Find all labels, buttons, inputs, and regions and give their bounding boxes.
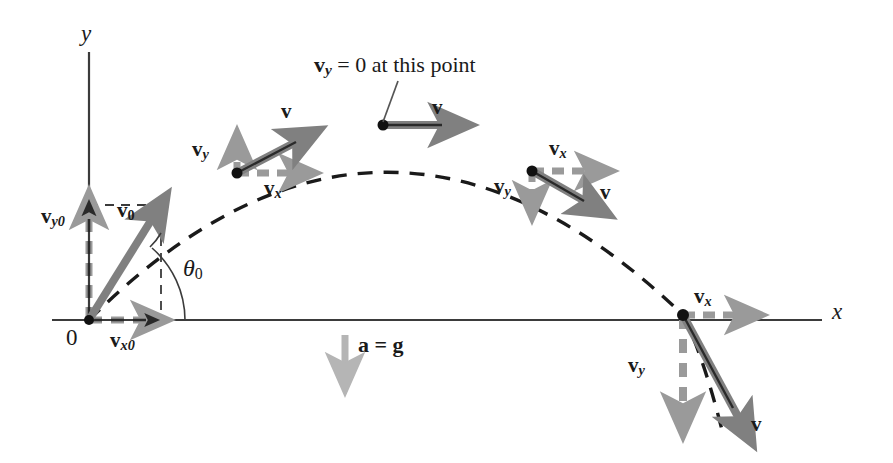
apex-v-label: v <box>432 97 443 118</box>
descending-vx-subscript: x <box>560 145 567 161</box>
ascending-vy-symbol: v <box>192 137 203 161</box>
v0-label: v0 <box>117 200 135 222</box>
ascending-vx-symbol: v <box>264 176 275 200</box>
theta0-inner-arc <box>150 233 161 247</box>
landing-vy-label: vy <box>628 355 645 377</box>
x-axis-label: x <box>832 300 842 323</box>
vy0-label: vy0 <box>41 206 65 228</box>
ascending-vy-label: vy <box>192 139 209 161</box>
projectile-motion-figure: y x 0 vy0 v0 vx0 θ0 vy vx v v vy = 0 at … <box>0 0 893 463</box>
vx0-subscript: x0 <box>121 337 135 353</box>
descending-vx-label: vx <box>549 138 567 160</box>
landing-point-group <box>677 309 742 424</box>
apex-annotation-text: = 0 at this point <box>337 52 475 77</box>
axes-group <box>52 52 822 320</box>
vx0-label: vx0 <box>110 330 135 352</box>
landing-vx-label: vx <box>694 286 712 308</box>
vx0-symbol: v <box>110 328 121 352</box>
descending-v-label: v <box>600 182 611 203</box>
descending-vx-symbol: v <box>549 136 560 160</box>
y-axis-label: y <box>81 22 91 45</box>
theta0-label: θ0 <box>183 256 203 282</box>
ascending-v-vector-core <box>237 142 296 173</box>
landing-point-dot <box>677 309 689 321</box>
apex-note-leader-line <box>383 81 398 122</box>
landing-vy-symbol: v <box>628 353 639 377</box>
launch-point-dot <box>84 315 94 325</box>
landing-v-vector-core <box>683 315 733 408</box>
landing-vy-subscript: y <box>639 362 645 378</box>
trajectory-path <box>89 172 683 320</box>
apex-annotation-vector: v <box>314 52 325 77</box>
ascending-vy-subscript: y <box>203 146 209 162</box>
descending-point-dot <box>527 166 538 177</box>
descending-point-group <box>527 166 593 205</box>
ascending-point-group <box>232 140 301 179</box>
ascending-vx-subscript: x <box>275 185 282 201</box>
ascending-v-label: v <box>281 101 292 122</box>
v0-symbol: v <box>117 198 128 222</box>
descending-vy-symbol: v <box>494 174 505 198</box>
ascending-vx-label: vx <box>264 178 282 200</box>
vy0-subscript: y0 <box>52 213 65 229</box>
landing-vx-symbol: v <box>694 284 705 308</box>
theta-subscript: 0 <box>195 265 203 282</box>
landing-v-label: v <box>751 414 762 435</box>
landing-vx-subscript: x <box>705 293 712 309</box>
descending-vy-label: vy <box>494 176 511 198</box>
descending-v-vector-core <box>532 171 584 201</box>
vy0-symbol: v <box>41 204 52 228</box>
v0-subscript: 0 <box>128 207 135 223</box>
apex-annotation-subscript: y <box>325 61 332 78</box>
origin-label: 0 <box>66 326 78 349</box>
v0-vector <box>89 214 155 320</box>
descending-vy-subscript: y <box>505 183 511 199</box>
apex-annotation: vy = 0 at this point <box>314 54 476 78</box>
theta-symbol: θ <box>183 255 195 281</box>
acceleration-label: a = g <box>358 334 404 356</box>
ascending-point-dot <box>232 168 243 179</box>
